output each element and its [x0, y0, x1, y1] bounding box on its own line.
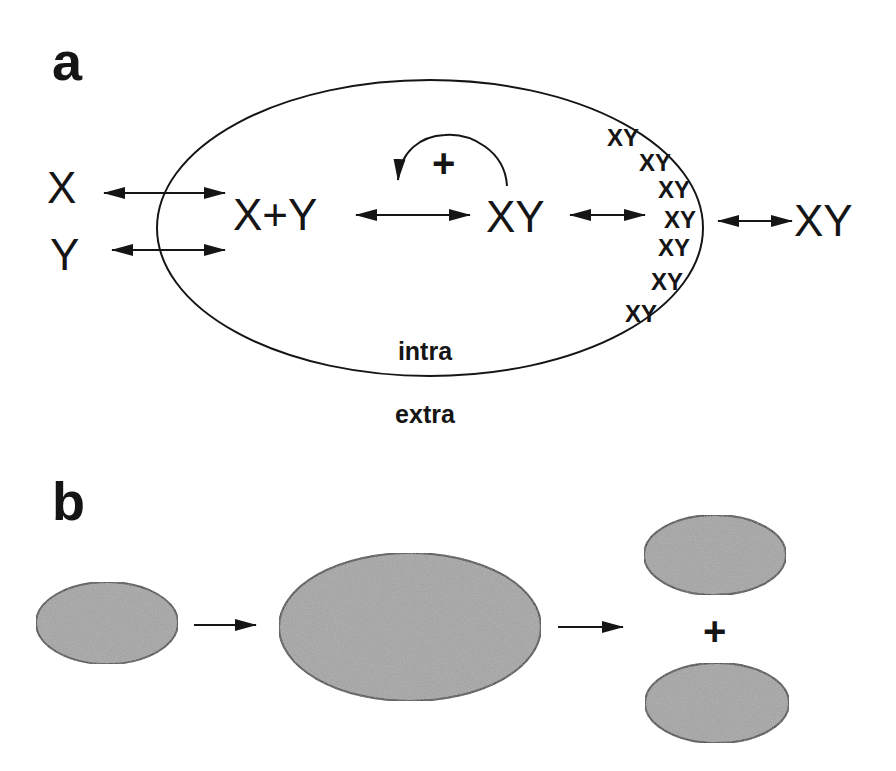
panel-b: b +: [36, 471, 789, 743]
released-xy: XY: [794, 196, 853, 245]
panel-a: a X Y X+Y XY + XY XY XY XY XY XY XY: [47, 31, 853, 428]
diagram-canvas: a X Y X+Y XY + XY XY XY XY XY XY XY: [0, 0, 896, 771]
membrane-xy-4: XY: [664, 206, 696, 233]
feedback-plus-sign: +: [432, 141, 455, 185]
small-cell-ellipse: [36, 582, 178, 664]
large-cell-ellipse: [279, 553, 541, 701]
membrane-xy-6: XY: [651, 268, 683, 295]
extra-label: extra: [395, 400, 456, 428]
intra-label: intra: [398, 337, 453, 365]
membrane-xy-1: XY: [607, 124, 639, 151]
membrane-xy-3: XY: [658, 176, 690, 203]
panel-a-label: a: [52, 31, 83, 91]
membrane-xy-7: XY: [625, 300, 657, 327]
species-y-outside: Y: [50, 230, 79, 279]
membrane-xy-2: XY: [639, 149, 671, 176]
membrane-xy-5: XY: [658, 234, 690, 261]
membrane-bound-xy-stack: XY XY XY XY XY XY XY: [607, 124, 696, 327]
product-xy: XY: [486, 192, 545, 241]
reactants-x-plus-y: X+Y: [233, 190, 317, 239]
daughter-cell-top-ellipse: [644, 515, 786, 595]
species-x-outside: X: [47, 163, 76, 212]
daughter-cell-bottom-ellipse: [645, 663, 789, 743]
panel-b-label: b: [52, 471, 85, 531]
division-plus-sign: +: [703, 609, 726, 653]
